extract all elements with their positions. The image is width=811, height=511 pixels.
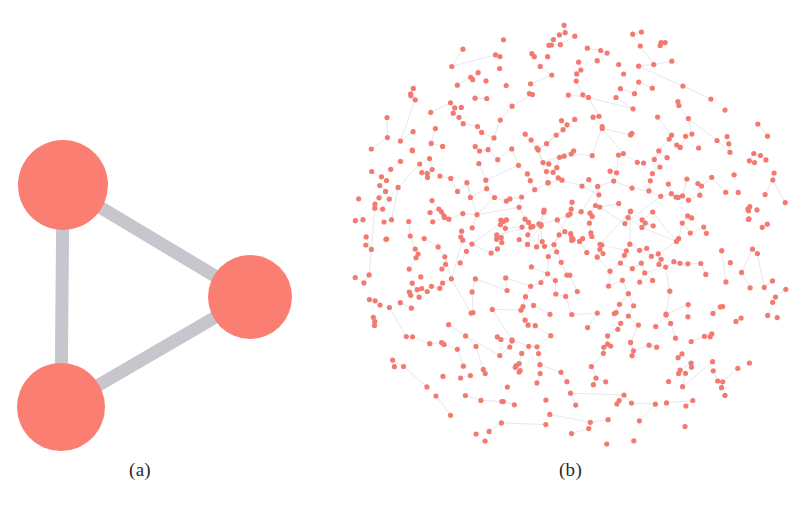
network-node — [459, 105, 464, 110]
network-edge — [588, 97, 633, 108]
network-node — [509, 146, 514, 151]
network-edge — [639, 404, 655, 421]
network-node — [545, 271, 550, 276]
network-node — [696, 145, 701, 150]
network-node — [639, 29, 644, 34]
network-node — [504, 83, 509, 88]
network-node — [611, 179, 616, 184]
network-node — [629, 186, 634, 191]
network-node — [408, 91, 413, 96]
network-node — [640, 217, 645, 222]
network-node — [497, 353, 502, 358]
network-node — [630, 32, 635, 37]
network-edge — [404, 367, 427, 387]
network-node — [632, 91, 637, 96]
network-node — [384, 178, 389, 183]
network-node — [601, 351, 606, 356]
network-node — [410, 148, 415, 153]
network-node — [572, 117, 577, 122]
network-edge — [617, 155, 619, 173]
network-node — [680, 384, 685, 389]
network-node — [463, 393, 468, 398]
network-node — [419, 170, 424, 175]
network-node — [485, 147, 490, 152]
network-edge — [566, 296, 572, 314]
network-node — [747, 158, 752, 163]
network-node — [600, 124, 605, 129]
network-node — [360, 217, 365, 222]
network-node — [655, 115, 660, 120]
network-node — [586, 426, 591, 431]
network-node — [537, 362, 542, 367]
network-node — [616, 62, 621, 67]
network-node — [509, 337, 514, 342]
network-node — [614, 170, 619, 175]
network-node — [596, 114, 601, 119]
network-node — [689, 132, 694, 137]
network-node — [568, 391, 573, 396]
network-node — [715, 378, 720, 383]
network-edge — [683, 179, 687, 196]
network-node — [411, 129, 416, 134]
network-node — [653, 324, 658, 329]
network-node — [639, 225, 644, 230]
network-node — [507, 344, 512, 349]
network-node — [577, 239, 582, 244]
network-edge — [472, 244, 491, 253]
network-node — [425, 171, 430, 176]
network-node — [608, 169, 613, 174]
network-edge — [667, 401, 693, 403]
network-node — [689, 361, 694, 366]
network-node — [629, 401, 634, 406]
triangle-graph-canvas — [0, 0, 330, 460]
network-node — [616, 201, 621, 206]
network-node — [656, 262, 661, 267]
network-node — [658, 194, 663, 199]
network-edge — [600, 207, 625, 223]
network-node — [547, 412, 552, 417]
network-node — [653, 402, 658, 407]
network-edge — [512, 95, 532, 107]
network-node — [503, 226, 508, 231]
network-node — [554, 249, 559, 254]
network-edge — [742, 272, 751, 287]
network-node — [589, 234, 594, 239]
network-node — [526, 323, 531, 328]
network-node — [635, 160, 640, 165]
network-node — [503, 275, 508, 280]
network-node — [668, 321, 673, 326]
network-node — [442, 254, 447, 259]
network-node — [593, 203, 598, 208]
network-edge — [537, 336, 551, 347]
network-node — [410, 281, 415, 286]
network-node — [483, 78, 488, 83]
network-node — [584, 250, 589, 255]
network-node — [519, 194, 524, 199]
network-node — [617, 302, 622, 307]
network-node — [443, 262, 448, 267]
network-node — [669, 191, 674, 196]
network-edge — [642, 227, 677, 241]
network-node — [429, 198, 434, 203]
network-node — [686, 198, 691, 203]
network-node — [598, 48, 603, 53]
network-node — [679, 351, 684, 356]
network-node — [437, 286, 442, 291]
panel-a-caption: (a) — [0, 459, 280, 481]
network-edge — [451, 240, 462, 279]
network-node — [427, 156, 432, 161]
network-node — [650, 171, 655, 176]
network-node — [541, 210, 546, 215]
network-node — [722, 108, 727, 113]
network-node — [588, 420, 593, 425]
network-node — [663, 265, 668, 270]
network-node — [669, 133, 674, 138]
network-node — [597, 242, 602, 247]
network-node — [631, 438, 636, 443]
graph-node — [18, 140, 108, 230]
network-node — [361, 280, 366, 285]
network-node — [489, 251, 494, 256]
network-node — [697, 193, 702, 198]
network-node — [380, 207, 385, 212]
network-edge — [451, 279, 471, 313]
